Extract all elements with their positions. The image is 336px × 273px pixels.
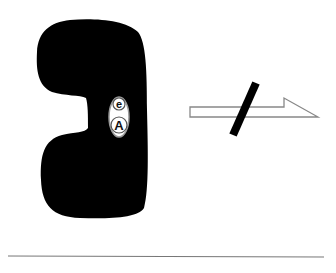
substrate-a-label: A [114,118,124,133]
enzyme-blob [37,19,148,218]
baseline-rule [8,256,324,257]
cofactor-e-label: e [116,98,122,110]
reaction-arrow [190,98,318,117]
bound-complex: e A [109,97,129,137]
diagram-canvas: e A [0,0,336,273]
